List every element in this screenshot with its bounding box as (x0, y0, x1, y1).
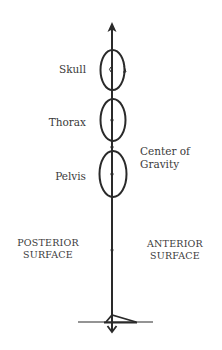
thorax-center-dot (110, 118, 113, 121)
center-of-gravity-dot (110, 145, 113, 148)
skull-label: Skull (59, 63, 87, 75)
posterior-surface-label-line2: SURFACE (23, 249, 73, 260)
thorax-label: Thorax (49, 116, 86, 128)
posterior-surface-label-line1: POSTERIOR (17, 237, 79, 248)
knee-dot (111, 249, 114, 252)
foot-shape (106, 315, 136, 322)
pelvis-center-dot (110, 172, 113, 175)
pelvis-label: Pelvis (55, 170, 86, 182)
posture-line-diagram: Skull Thorax Pelvis Center of Gravity PO… (0, 0, 222, 350)
ear-mark-icon (110, 67, 112, 72)
anterior-surface-label-line2: SURFACE (150, 250, 200, 261)
center-of-gravity-label-line1: Center of (140, 145, 191, 157)
center-of-gravity-label-line2: Gravity (140, 158, 179, 170)
anterior-surface-label-line1: ANTERIOR (146, 238, 204, 249)
